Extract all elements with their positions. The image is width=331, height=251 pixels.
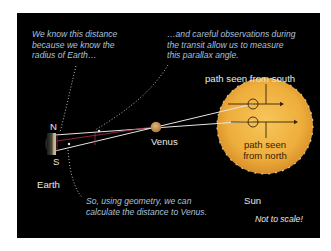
sun-label: Sun [244,195,261,206]
venus-disk-icon [151,122,162,133]
south-label: S [53,156,59,167]
venus-label: Venus [151,136,178,147]
geometry-dotted-arc [68,150,82,197]
path-south-label: path seen from south [205,73,295,84]
caption-earth-radius: We know this distance because we know th… [32,29,117,61]
caption-geometry: So, using geometry, we can calculate the… [86,196,207,217]
earth-half-disk-icon [45,133,56,155]
north-label: N [50,121,57,132]
parallax-dotted-arc [95,65,168,130]
earth-label: Earth [37,179,60,190]
path-north-label: path seen from north [232,139,298,161]
caption-parallax-angle: …and careful observations during the tra… [167,29,296,61]
earth-radius-dotted-arc [60,66,76,132]
not-to-scale-note: Not to scale! [255,214,303,224]
